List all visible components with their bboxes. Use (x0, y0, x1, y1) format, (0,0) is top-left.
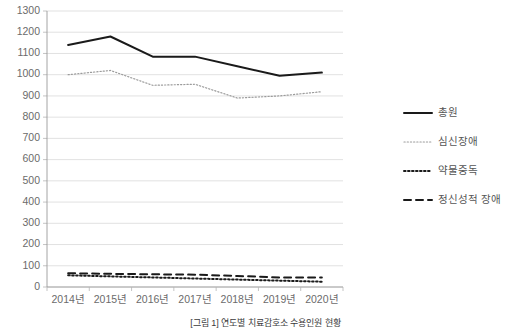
x-tick-labels: 2014년2015년2016년2017년2018년2019년2020년 (51, 293, 338, 305)
legend-label-3: 정신성적 장애 (438, 193, 501, 205)
grid-lines (47, 11, 343, 287)
y-tick-label: 0 (34, 280, 40, 292)
legend-label-1: 심신장애 (438, 135, 478, 147)
legend-label-2: 약물중독 (438, 164, 478, 176)
chart-legend: 총원심신장애약물중독정신성적 장애 (404, 106, 501, 205)
x-tick-label: 2018년 (221, 293, 254, 305)
x-tick-label: 2017년 (178, 293, 211, 305)
y-tick-label: 600 (22, 152, 40, 164)
x-tick-label: 2016년 (136, 293, 169, 305)
y-tick-label: 400 (22, 195, 40, 207)
figure-caption: [그림 1] 연도별 치료감호소 수용인원 현황 (0, 316, 531, 329)
y-tick-label: 200 (22, 237, 40, 249)
y-tick-labels: 0100200300400500600700800900100011001200… (17, 4, 41, 292)
x-tick-label: 2014년 (51, 293, 84, 305)
y-tick-label: 700 (22, 131, 40, 143)
y-tick-label: 900 (22, 89, 40, 101)
y-tick-label: 500 (22, 174, 40, 186)
x-tick-label: 2019년 (263, 293, 296, 305)
y-tick-label: 800 (22, 110, 40, 122)
series-line-0 (68, 36, 322, 75)
y-tick-label: 100 (22, 259, 40, 271)
x-tick-label: 2020년 (305, 293, 338, 305)
y-tick-label: 1300 (17, 4, 41, 16)
y-tick-label: 1100 (17, 46, 40, 58)
x-tick-label: 2015년 (94, 293, 127, 305)
chart-canvas: 0100200300400500600700800900100011001200… (0, 0, 531, 330)
y-tick-label: 300 (22, 216, 40, 228)
y-tick-marks (43, 11, 47, 287)
y-tick-label: 1200 (17, 25, 41, 37)
x-tick-marks (47, 287, 343, 291)
line-chart: 0100200300400500600700800900100011001200… (0, 0, 531, 330)
y-tick-label: 1000 (17, 67, 41, 79)
series-line-2 (68, 275, 322, 281)
legend-label-0: 총원 (438, 106, 458, 118)
